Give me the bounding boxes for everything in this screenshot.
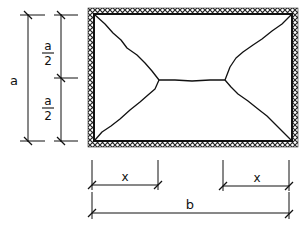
label-half-a-bottom: a 2 — [42, 94, 54, 123]
svg-text:2: 2 — [44, 109, 52, 123]
svg-text:a: a — [44, 94, 51, 108]
label-half-a-top: a 2 — [42, 39, 54, 68]
dimension-a — [20, 11, 45, 145]
dimension-half-a — [54, 11, 78, 145]
label-x-right: x — [253, 171, 260, 185]
yield-line-top-left — [95, 15, 159, 80]
yield-line-top-right — [225, 15, 291, 80]
yield-line-bottom-left — [95, 80, 159, 140]
slab-yield-line-diagram: a a 2 a 2 x x — [0, 0, 308, 233]
label-b: b — [186, 197, 194, 212]
yield-line-ridge — [159, 80, 225, 81]
yield-line-bottom-right — [225, 80, 291, 140]
yield-lines — [95, 15, 291, 140]
slab-edge — [94, 14, 292, 141]
label-a: a — [10, 73, 18, 88]
svg-text:a: a — [44, 39, 51, 53]
label-x-left: x — [121, 170, 128, 184]
fixed-support-border — [88, 8, 298, 147]
svg-text:2: 2 — [44, 54, 52, 68]
